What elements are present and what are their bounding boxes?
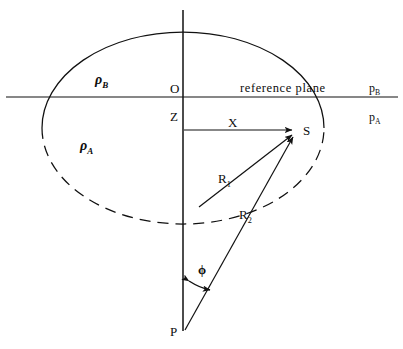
label-origin-O: O [170, 82, 179, 95]
label-pressure-lower-pa: pA [369, 111, 381, 126]
label-depth-Z: Z [170, 110, 178, 123]
label-density-upper-rho-b: ρB [95, 73, 108, 90]
label-density-lower-rho-a: ρA [80, 139, 93, 156]
phi-angle-arrow [189, 281, 210, 290]
label-radius-r1: R1 [218, 172, 231, 189]
label-pressure-upper-pb: pB [369, 82, 380, 97]
diagram-svg [0, 0, 403, 349]
r1-vector-line [199, 135, 292, 207]
r2-vector-line [185, 137, 293, 330]
figure-canvas: O Z X S P R1 R2 ϕ ρB ρA pB pA reference … [0, 0, 403, 349]
label-reference-plane: reference plane [240, 82, 326, 95]
label-radial-X: X [228, 116, 237, 129]
label-angle-phi: ϕ [198, 263, 206, 276]
label-surface-point-S: S [303, 124, 310, 137]
label-apex-P: P [170, 325, 177, 338]
label-radius-r2: R2 [239, 208, 252, 225]
